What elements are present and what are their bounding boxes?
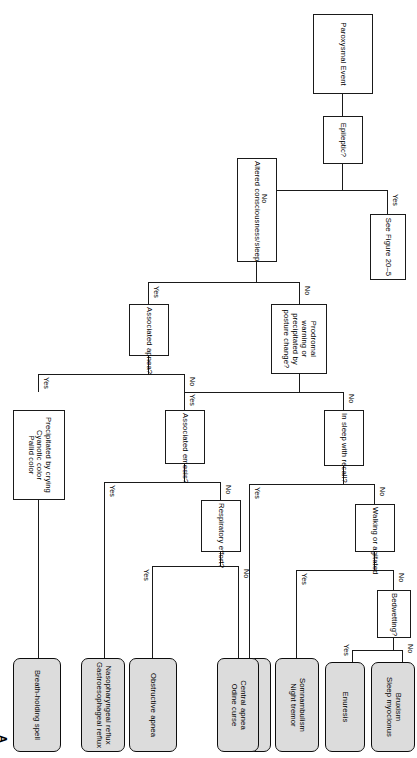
edge-emesis-yes-run [104,482,105,658]
edge-label-walking-no: No [398,573,405,582]
edge-label-bedwet-no: No [407,644,414,653]
edge-resp-no-run [238,566,239,658]
node-altered-consciousness[interactable]: Altered consciousness/sleep [237,158,277,262]
node-line: Pallid color [26,413,35,497]
terminal-breath-holding-spell[interactable]: Breath-holding spell [13,658,61,752]
node-respiratory-effort-lines: Respiratory effort? [217,503,226,549]
edge-label-emesis-yes: Yes [109,485,116,497]
node-walking-or-agitated[interactable]: Walking or agitated [355,504,395,552]
terminal-somnambulism-lines: Somnambulism Night tremor [288,661,306,749]
terminal-obstructive-apnea-lines: Obstructive apnea [149,661,158,749]
edge-epileptic-stem [342,164,343,190]
terminal-enuresis[interactable]: Enuresis [325,662,365,752]
node-line: Somnambulism [297,661,306,749]
node-line: Breath-holding spell [33,661,42,749]
terminal-bruxism-sleep-myoclonus[interactable]: Bruxism Sleep myoclonus [371,662,415,752]
node-line: In sleep with recall? [340,413,349,463]
edge-prodromal-yes [184,392,185,410]
node-line: Associated emesis? [181,413,190,461]
node-associated-emesis[interactable]: Associated emesis? [165,410,205,464]
edge-resp-split [153,566,239,567]
node-line: Altered consciousness/sleep [253,161,262,259]
node-in-sleep-with-recall-lines: In sleep with recall? [340,413,349,463]
edge-apnea-no [184,374,185,392]
node-line: Respiratory effort? [217,503,226,549]
edge-walking-no [393,570,394,590]
node-associated-emesis-lines: Associated emesis? [181,413,190,461]
edge-emesis-no [220,482,221,500]
node-paroxysmal-event-lines: Paroxysmal Event [339,17,348,91]
node-bedwetting-lines: Bedwetting? [390,593,399,635]
node-in-sleep-with-recall[interactable]: In sleep with recall? [324,410,364,466]
node-paroxysmal-event[interactable]: Paroxysmal Event [313,14,373,94]
node-line: Bruxism [393,665,402,749]
edge-label-altered-no: No [304,286,311,295]
edge-label-apnea-yes: Yes [43,377,50,389]
edge-label-resp-no: No [243,569,250,578]
edge-label-epileptic-yes: Yes [392,194,399,206]
edge-bedwet-split [353,650,403,651]
panel-letter: A [0,735,8,743]
node-line: Gastroesophageal reflux [94,661,103,749]
edge-label-apnea-no: No [189,377,196,386]
node-prodromal-warning-lines: Prodromal warning or precipitated by pos… [281,307,317,371]
node-line: Night tremor [288,661,297,749]
node-line: Associated apnea? [145,307,154,353]
node-line: Obstructive apnea [149,661,158,749]
terminal-breath-holding-lines: Breath-holding spell [33,661,42,749]
node-line: Nasopharyngeal reflux [103,661,112,749]
node-line: posture change? [281,307,290,371]
node-altered-consciousness-lines: Altered consciousness/sleep [253,161,262,259]
edge-apnea-yes [38,374,39,392]
edge-altered-split [149,282,300,283]
edge-prodromal-stem [299,374,300,392]
node-epileptic[interactable]: Epileptic? [323,116,363,164]
edge-label-prodromal-yes: Yes [189,394,196,406]
node-line: Epileptic? [339,119,348,161]
edge-epileptic-yes [387,190,388,214]
edge-apnea-split [39,374,185,375]
node-line: Sleep myoclonus [384,665,393,749]
terminal-central-apnea-odine-curse[interactable]: Central apnea Odine curse [217,658,259,752]
edge-enuresis-connector [352,654,353,662]
rotated-figure-wrapper: Paroxysmal Event Epileptic? See Figure 2… [0,0,417,758]
edge-label-epileptic-no: No [261,194,268,203]
edge-insleep-no [374,484,375,504]
node-associated-apnea[interactable]: Associated apnea? [129,304,169,356]
edge-root-to-epileptic [342,94,343,116]
edge-prodromal-no [343,392,344,410]
edge-emesis-split [105,482,221,483]
edge-resp-yes-run [152,566,153,658]
edge-label-bedwet-yes: Yes [343,644,350,656]
edge-precip-to-breath [38,500,39,658]
edge-label-walking-yes: Yes [301,573,308,585]
terminal-enuresis-lines: Enuresis [341,665,350,749]
terminal-central-apnea-lines: Central apnea Odine curse [229,661,247,749]
node-precipitated-by-crying-lines: Precipitated by crying Cyanotic color Pa… [26,413,53,497]
edge-label-altered-yes: Yes [153,286,160,298]
terminal-obstructive-apnea[interactable]: Obstructive apnea [129,658,177,752]
node-line: Walking or agitated [371,507,380,549]
node-associated-apnea-lines: Associated apnea? [145,307,154,353]
edge-label-resp-yes: Yes [143,569,150,581]
node-precipitated-by-crying[interactable]: Precipitated by crying Cyanotic color Pa… [13,410,65,500]
node-line: Odine curse [229,661,238,749]
edge-altered-no [299,282,300,304]
node-walking-or-agitated-lines: Walking or agitated [371,507,380,549]
node-line: Precipitated by crying [43,413,52,497]
flowchart-canvas: Paroxysmal Event Epileptic? See Figure 2… [0,0,417,758]
edge-altered-yes [148,282,149,304]
edge-label-emesis-no: No [225,485,232,494]
node-respiratory-effort[interactable]: Respiratory effort? [201,500,241,552]
edge-label-insleep-no: No [379,487,386,496]
edge-prodromal-split [185,392,344,393]
node-prodromal-warning[interactable]: Prodromal warning or precipitated by pos… [271,304,327,374]
terminal-reflux[interactable]: Nasopharyngeal reflux Gastroesophageal r… [81,658,125,752]
node-line: See Figure 20–5 [384,217,393,277]
node-see-figure[interactable]: See Figure 20–5 [370,214,406,280]
node-see-figure-lines: See Figure 20–5 [384,217,393,277]
edge-bedwet-stem [393,638,394,650]
node-bedwetting[interactable]: Bedwetting? [377,590,411,638]
edge-altered-stem [256,262,257,282]
terminal-somnambulism-night-tremor[interactable]: Somnambulism Night tremor [275,658,319,752]
